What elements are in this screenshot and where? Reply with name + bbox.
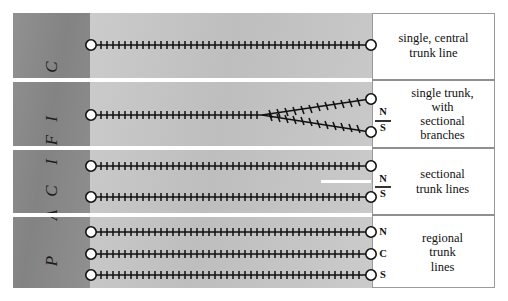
node-terminal-west bbox=[86, 40, 96, 50]
caption-row-4-line-3: lines bbox=[422, 260, 463, 274]
caption-row-3: sectional trunk lines bbox=[372, 150, 495, 213]
row-separator-right-2 bbox=[372, 147, 495, 149]
row-separator-right-3 bbox=[372, 214, 495, 216]
node-terminal-west bbox=[86, 110, 96, 120]
caption-row-2-line-2: with bbox=[411, 100, 474, 114]
caption-row-1-line-1: single, central bbox=[398, 31, 468, 45]
row-separator-right-1 bbox=[372, 79, 495, 81]
caption-row-3-line-1: sectional bbox=[416, 167, 469, 181]
caption-row-2-line-4: branches bbox=[411, 128, 474, 142]
node-terminal-south-west bbox=[86, 270, 96, 280]
caption-row-1: single, central trunk line bbox=[372, 13, 495, 78]
caption-row-4-line-1: regional bbox=[422, 231, 463, 245]
sectional-divider-line bbox=[321, 180, 371, 183]
caption-row-3-line-2: trunk lines bbox=[416, 182, 469, 196]
node-terminal-north-west bbox=[86, 227, 96, 237]
caption-row-2-line-1: single trunk, bbox=[411, 86, 474, 100]
caption-row-1-line-2: trunk line bbox=[398, 46, 468, 60]
caption-row-2-line-3: sectional bbox=[411, 114, 474, 128]
caption-row-2: single trunk, with sectional branches bbox=[372, 82, 495, 146]
trunk-line-diagram: C I F I C A P bbox=[13, 13, 495, 288]
caption-row-4: regional trunk lines bbox=[372, 217, 495, 288]
node-terminal-north-west bbox=[86, 161, 96, 171]
node-terminal-central-west bbox=[86, 249, 96, 259]
caption-row-4-line-2: trunk bbox=[422, 245, 463, 259]
node-terminal-south-west bbox=[86, 192, 96, 202]
